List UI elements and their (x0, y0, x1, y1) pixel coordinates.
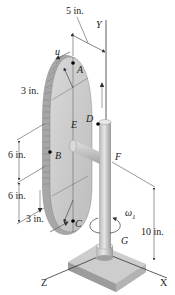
diagram-canvas (0, 0, 175, 295)
point-label-g: G (121, 236, 128, 246)
omega-label: ω1 (125, 208, 136, 221)
label-10in: 10 in. (141, 227, 164, 237)
point-label-a: A (77, 65, 83, 75)
point-label-b: B (55, 151, 61, 161)
point-label-f: F (115, 152, 121, 162)
point-label-e: E (71, 120, 77, 130)
label-5in: 5 in. (66, 6, 84, 16)
label-6in-upper: 6 in. (8, 150, 26, 160)
point-d (96, 122, 100, 126)
label-3in-bottom: 3 in. (26, 214, 44, 224)
axis-label-y: Y (96, 20, 102, 30)
velocity-label-u: u (55, 47, 60, 57)
point-a (71, 61, 75, 65)
point-label-c: C (75, 219, 82, 229)
label-3in-top: 3 in. (21, 86, 39, 96)
axis-label-z: Z (41, 278, 47, 288)
label-6in-lower: 6 in. (8, 191, 26, 201)
point-b (48, 150, 52, 154)
vertical-shaft (99, 120, 111, 249)
rotating-plate (42, 55, 92, 235)
axis-label-x: X (160, 278, 167, 288)
dim-5in-line (74, 36, 105, 52)
dim-5in-leader (77, 17, 88, 43)
point-label-d: D (86, 114, 93, 124)
